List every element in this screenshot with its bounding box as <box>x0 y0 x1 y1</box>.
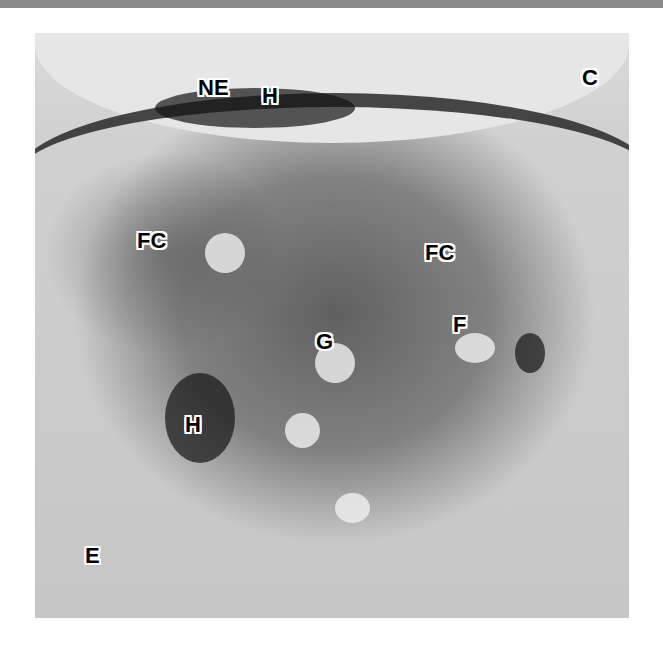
top-border-bar <box>0 0 663 8</box>
label-fibrillar-component: F <box>453 312 466 338</box>
label-heterochromatin-bottom: H <box>185 412 201 438</box>
label-cytoplasm: C <box>582 65 598 91</box>
label-euchromatin: E <box>85 543 100 569</box>
label-nuclear-envelope: NE <box>198 75 229 101</box>
label-fibrillar-center-left: FC <box>137 228 166 254</box>
label-granular-component: G <box>316 329 333 355</box>
micrograph-image <box>35 33 629 618</box>
label-heterochromatin-top: H <box>262 83 278 109</box>
label-fibrillar-center-right: FC <box>425 240 454 266</box>
nuclear-envelope <box>35 93 629 307</box>
